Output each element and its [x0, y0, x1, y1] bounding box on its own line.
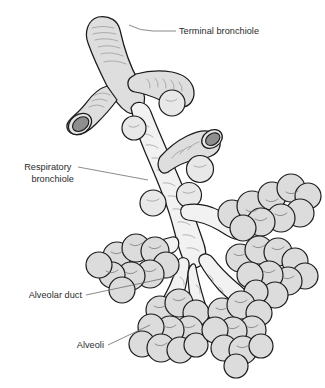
label-alveoli: Alveoli	[77, 340, 104, 350]
alveolus	[109, 277, 135, 303]
alveolus	[249, 334, 273, 358]
alveolus-bud-trunk-left-1	[122, 116, 146, 140]
alveolus-bud-trunk-left-2	[140, 190, 166, 216]
label-alveolar-duct: Alveolar duct	[29, 290, 83, 300]
label-respiratory-bronchiole-line1: Respiratory	[24, 162, 72, 172]
alveolus	[86, 252, 112, 278]
label-terminal-bronchiole: Terminal bronchiole	[179, 26, 259, 36]
respiratory-tree-illustration: Terminal bronchiole Respiratory bronchio…	[0, 0, 325, 388]
label-respiratory-bronchiole-line2: bronchiole	[31, 174, 74, 184]
alveolus-bud-upper-right	[159, 90, 185, 116]
alveolus	[230, 215, 256, 241]
alveolus-bud-second-branch	[187, 156, 214, 183]
diagram-figure: Terminal bronchiole Respiratory bronchio…	[0, 0, 325, 388]
alveolus	[224, 354, 248, 378]
label-respiratory-bronchiole: Respiratory bronchiole	[24, 162, 74, 184]
